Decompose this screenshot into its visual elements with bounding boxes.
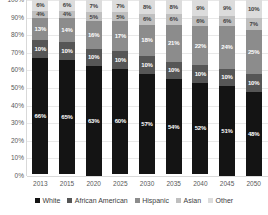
bar-segment-value-label: 25% bbox=[248, 49, 259, 55]
legend-swatch-icon bbox=[135, 198, 140, 203]
bar-segment[interactable]: 54% bbox=[166, 79, 182, 174]
bar-segment-value-label: 65% bbox=[61, 114, 72, 120]
bar-segment[interactable]: 22% bbox=[192, 26, 208, 65]
bar-column[interactable]: 6%4%13%10%66% bbox=[27, 0, 54, 176]
y-axis-tick-label: 60% bbox=[11, 67, 24, 74]
legend-item[interactable]: White bbox=[35, 197, 60, 204]
bar-stack: 6%4%14%10%65% bbox=[59, 0, 75, 176]
legend-label: Hispanic bbox=[142, 197, 169, 204]
bar-segment[interactable]: 21% bbox=[166, 25, 182, 62]
bar-segment[interactable]: 24% bbox=[219, 26, 235, 68]
bar-segment[interactable]: 10% bbox=[59, 42, 75, 60]
bar-segment[interactable]: 65% bbox=[59, 60, 75, 174]
legend-label: Asian bbox=[184, 197, 202, 204]
bar-segment[interactable]: 6% bbox=[219, 16, 235, 27]
bar-segment-value-label: 10% bbox=[141, 62, 152, 68]
legend-item[interactable]: Asian bbox=[176, 197, 201, 204]
bar-column[interactable]: 10%7%25%10%48% bbox=[240, 0, 267, 176]
y-axis-tick-label: 40% bbox=[11, 102, 24, 109]
bar-segment[interactable]: 10% bbox=[86, 49, 102, 66]
bar-column[interactable]: 7%5%17%10%60% bbox=[107, 0, 134, 176]
bar-column[interactable]: 8%6%18%10%57% bbox=[134, 0, 161, 176]
x-axis: 201320152020202520302035204020452050 bbox=[27, 178, 267, 190]
bar-segment[interactable]: 10% bbox=[246, 0, 262, 18]
bar-segment-value-label: 6% bbox=[170, 16, 178, 22]
bar-segment[interactable]: 57% bbox=[139, 74, 155, 174]
bar-segment[interactable]: 6% bbox=[166, 14, 182, 25]
x-axis-tick-label: 2030 bbox=[134, 178, 161, 190]
bar-segment-value-label: 10% bbox=[88, 54, 99, 60]
bar-segment-value-label: 17% bbox=[115, 33, 126, 39]
bar-column[interactable]: 9%6%24%10%51% bbox=[214, 0, 241, 176]
chart-legend: WhiteAfrican AmericanHispanicAsianOther bbox=[0, 197, 268, 204]
bar-segment-value-label: 14% bbox=[61, 27, 72, 33]
bar-segment[interactable]: 10% bbox=[139, 56, 155, 74]
bar-segment-value-label: 51% bbox=[221, 128, 232, 134]
bar-segment[interactable]: 10% bbox=[219, 69, 235, 87]
bar-column[interactable]: 6%4%14%10%65% bbox=[54, 0, 81, 176]
bar-segment[interactable]: 9% bbox=[192, 0, 208, 16]
bar-segment[interactable]: 14% bbox=[59, 18, 75, 43]
bar-segment[interactable]: 7% bbox=[86, 0, 102, 12]
bar-segment[interactable]: 63% bbox=[86, 66, 102, 176]
bar-segment[interactable]: 13% bbox=[32, 18, 48, 41]
y-axis-tick-label: 30% bbox=[11, 120, 24, 127]
y-axis-tick-label: 10% bbox=[11, 155, 24, 162]
bar-segment-value-label: 10% bbox=[61, 48, 72, 54]
bar-segment-value-label: 48% bbox=[248, 131, 259, 137]
bar-segment[interactable]: 6% bbox=[192, 16, 208, 27]
y-axis-tick-label: 0% bbox=[15, 173, 24, 180]
bar-segment[interactable]: 7% bbox=[112, 0, 128, 12]
bar-segment-value-label: 57% bbox=[141, 121, 152, 127]
legend-item[interactable]: Hispanic bbox=[135, 197, 169, 204]
bar-segment[interactable]: 60% bbox=[112, 69, 128, 175]
bar-segment-value-label: 7% bbox=[90, 3, 98, 9]
bar-segment[interactable]: 51% bbox=[219, 86, 235, 176]
bar-segment[interactable]: 6% bbox=[59, 0, 75, 11]
bar-column[interactable]: 7%5%16%10%63% bbox=[80, 0, 107, 176]
bar-segment-value-label: 8% bbox=[170, 4, 178, 10]
y-axis-tick-label: 50% bbox=[11, 85, 24, 92]
bar-segment[interactable]: 9% bbox=[219, 0, 235, 16]
bar-segment[interactable]: 8% bbox=[166, 0, 182, 14]
bar-segment[interactable]: 17% bbox=[112, 21, 128, 51]
bar-segment[interactable]: 7% bbox=[246, 18, 262, 30]
bar-segment[interactable]: 52% bbox=[192, 83, 208, 175]
bar-segment[interactable]: 10% bbox=[166, 62, 182, 80]
bar-segment[interactable]: 10% bbox=[246, 74, 262, 92]
bar-segment-value-label: 22% bbox=[195, 43, 206, 49]
bar-segment[interactable]: 25% bbox=[246, 30, 262, 74]
bar-segment[interactable]: 48% bbox=[246, 92, 262, 176]
bar-segment-value-label: 66% bbox=[35, 113, 46, 119]
x-axis-tick-label: 2040 bbox=[187, 178, 214, 190]
bar-segment-value-label: 10% bbox=[115, 57, 126, 63]
legend-swatch-icon bbox=[208, 198, 213, 203]
bar-segment[interactable]: 4% bbox=[59, 11, 75, 18]
bar-segment-value-label: 6% bbox=[63, 2, 71, 8]
bar-segment-value-label: 13% bbox=[35, 26, 46, 32]
x-axis-tick-label: 2015 bbox=[54, 178, 81, 190]
bar-stack: 10%7%25%10%48% bbox=[246, 0, 262, 176]
bar-segment[interactable]: 6% bbox=[32, 0, 48, 11]
bar-column[interactable]: 9%6%22%10%52% bbox=[187, 0, 214, 176]
legend-item[interactable]: African American bbox=[67, 197, 127, 204]
bar-segment-value-label: 54% bbox=[168, 124, 179, 130]
legend-item[interactable]: Other bbox=[208, 197, 233, 204]
bar-segment[interactable]: 4% bbox=[32, 11, 48, 18]
y-axis-tick-label: 90% bbox=[11, 14, 24, 21]
bar-segment[interactable]: 8% bbox=[139, 0, 155, 14]
bar-segment[interactable]: 16% bbox=[86, 21, 102, 49]
bar-segment[interactable]: 10% bbox=[32, 40, 48, 58]
plot-area: 0%10%20%30%40%50%60%70%80%90%100% 6%4%13… bbox=[0, 0, 268, 186]
bar-stack: 9%6%24%10%51% bbox=[219, 0, 235, 176]
bar-column[interactable]: 8%6%21%10%54% bbox=[160, 0, 187, 176]
bar-segment[interactable]: 5% bbox=[112, 12, 128, 21]
bar-segment[interactable]: 18% bbox=[139, 25, 155, 57]
bar-segment[interactable]: 5% bbox=[86, 12, 102, 21]
bar-segment[interactable]: 10% bbox=[192, 65, 208, 83]
bar-segment[interactable]: 10% bbox=[112, 51, 128, 69]
bar-segment[interactable]: 6% bbox=[139, 14, 155, 25]
bar-segment[interactable]: 66% bbox=[32, 58, 48, 174]
bar-segment-value-label: 5% bbox=[90, 14, 98, 20]
bar-segment-value-label: 9% bbox=[196, 5, 204, 11]
